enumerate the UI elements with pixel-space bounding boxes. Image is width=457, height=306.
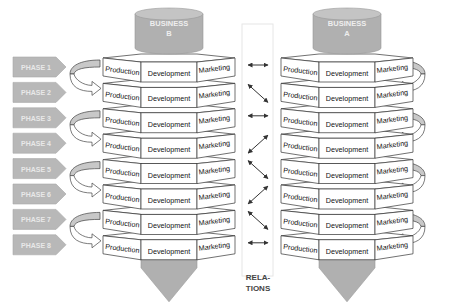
relations-label-line1: RELA-: [246, 273, 271, 282]
development-label: Development: [148, 69, 190, 78]
development-label: Development: [148, 221, 190, 230]
layer-7: ProductionDevelopmentMarketing: [103, 206, 235, 234]
development-label: Development: [148, 247, 190, 256]
left-curl-arrow-3: [70, 162, 101, 197]
phase-label-7: PHASE 7: [13, 209, 66, 229]
layer-1: ProductionDevelopmentMarketing: [103, 54, 235, 82]
business-title: BUSINESS: [150, 19, 188, 28]
business-phases-diagram: PHASE 1PHASE 2PHASE 3PHASE 4PHASE 5PHASE…: [0, 0, 457, 306]
phase-labels: PHASE 1PHASE 2PHASE 3PHASE 4PHASE 5PHASE…: [13, 57, 66, 255]
development-label: Development: [326, 69, 368, 78]
left-curl-arrow-1: [70, 60, 101, 95]
layer-2: ProductionDevelopmentMarketing: [103, 79, 235, 107]
phase-label-6: PHASE 6: [13, 184, 66, 204]
development-label: Development: [326, 247, 368, 256]
phase-label-text: PHASE 5: [21, 166, 51, 173]
development-label: Development: [326, 94, 368, 103]
phase-label-text: PHASE 7: [21, 216, 51, 223]
development-label: Development: [148, 145, 190, 154]
layer-8: ProductionDevelopmentMarketing: [103, 232, 235, 260]
phase-label-5: PHASE 5: [13, 159, 66, 179]
business-a-stack: ProductionDevelopmentMarketingProduction…: [281, 8, 413, 302]
phase-label-text: PHASE 6: [21, 191, 51, 198]
business-letter: A: [344, 29, 350, 38]
relations-column: [242, 24, 273, 276]
development-label: Development: [148, 171, 190, 180]
phase-label-1: PHASE 1: [13, 57, 66, 77]
phase-label-text: PHASE 1: [21, 64, 51, 71]
business-cylinder: BUSINESSA: [313, 8, 381, 54]
development-label: Development: [326, 221, 368, 230]
layer-4: ProductionDevelopmentMarketing: [281, 130, 413, 158]
phase-label-text: PHASE 8: [21, 242, 51, 249]
left-curl-arrow-2: [70, 111, 101, 146]
layer-3: ProductionDevelopmentMarketing: [103, 105, 235, 133]
development-label: Development: [326, 196, 368, 205]
phase-label-text: PHASE 3: [21, 115, 51, 122]
business-letter: B: [166, 29, 172, 38]
layer-3: ProductionDevelopmentMarketing: [281, 105, 413, 133]
down-arrow-icon: [141, 256, 197, 302]
business-b-stack: ProductionDevelopmentMarketingProduction…: [103, 8, 235, 302]
down-arrow-icon: [319, 256, 375, 302]
development-label: Development: [148, 196, 190, 205]
layer-5: ProductionDevelopmentMarketing: [103, 156, 235, 184]
phase-label-4: PHASE 4: [13, 133, 66, 153]
relations-label-line2: TIONS: [246, 284, 271, 293]
phase-label-3: PHASE 3: [13, 108, 66, 128]
development-label: Development: [326, 145, 368, 154]
development-label: Development: [326, 171, 368, 180]
phase-label-2: PHASE 2: [13, 82, 66, 102]
business-title: BUSINESS: [328, 19, 366, 28]
layer-6: ProductionDevelopmentMarketing: [103, 181, 235, 209]
business-cylinder: BUSINESSB: [135, 8, 203, 54]
layer-1: ProductionDevelopmentMarketing: [281, 54, 413, 82]
layer-7: ProductionDevelopmentMarketing: [281, 206, 413, 234]
left-curl-arrow-4: [70, 212, 101, 247]
layer-8: ProductionDevelopmentMarketing: [281, 232, 413, 260]
development-label: Development: [148, 94, 190, 103]
layer-2: ProductionDevelopmentMarketing: [281, 79, 413, 107]
development-label: Development: [148, 120, 190, 129]
development-label: Development: [326, 120, 368, 129]
layer-4: ProductionDevelopmentMarketing: [103, 130, 235, 158]
phase-label-8: PHASE 8: [13, 235, 66, 255]
layer-6: ProductionDevelopmentMarketing: [281, 181, 413, 209]
left-curl-arrows: [70, 60, 101, 248]
phase-label-text: PHASE 4: [21, 140, 51, 147]
phase-label-text: PHASE 2: [21, 89, 51, 96]
layer-5: ProductionDevelopmentMarketing: [281, 156, 413, 184]
